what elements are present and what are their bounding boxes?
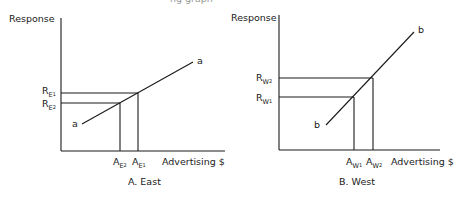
west-rw2-label: RW2 — [256, 72, 272, 83]
west-y-axis-label: Response — [231, 12, 277, 23]
west-x-axis-label: Advertising $ — [391, 156, 454, 167]
east-caption: A. East — [128, 176, 161, 187]
west-rw1-label: RW1 — [256, 92, 272, 103]
east-curve-label-bottom: a — [72, 118, 78, 129]
west-aw2-label: AW2 — [366, 156, 382, 167]
east-ae1-label: AE1 — [132, 156, 146, 167]
east-y-axis-label: Response — [9, 13, 55, 24]
clipped-title: ng graph — [170, 0, 213, 4]
diagram-canvas — [0, 0, 458, 198]
east-re1-label: RE1 — [42, 85, 56, 96]
west-curve-label-bottom: b — [314, 119, 320, 130]
east-ae2-label: AE2 — [113, 156, 127, 167]
west-aw1-label: AW1 — [346, 156, 362, 167]
east-x-axis-label: Advertising $ — [162, 156, 225, 167]
east-re2-label: RE2 — [42, 98, 56, 109]
west-curve-label-top: b — [418, 24, 424, 35]
west-caption: B. West — [339, 176, 375, 187]
east-curve-label-top: a — [197, 55, 203, 66]
